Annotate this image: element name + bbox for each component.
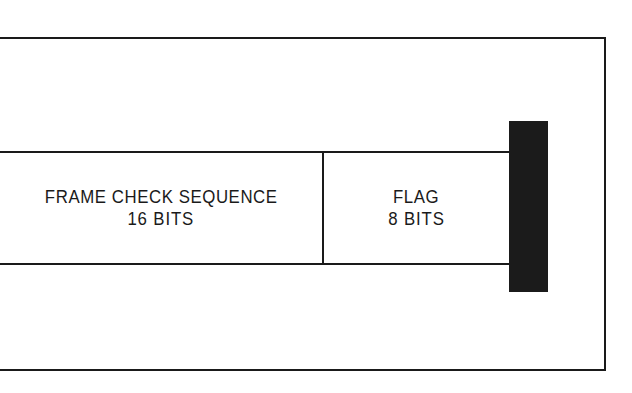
field-frame-check-sequence: FRAME CHECK SEQUENCE 16 BITS — [0, 153, 322, 263]
frame-format-diagram: FRAME CHECK SEQUENCE 16 BITS FLAG 8 BITS — [0, 0, 632, 393]
field-flag-name: FLAG — [393, 186, 439, 208]
field-flag: FLAG 8 BITS — [324, 153, 509, 263]
frame-right-border — [604, 37, 606, 371]
field-flag-size: 8 BITS — [388, 208, 445, 230]
frame-bottom-border — [0, 369, 606, 371]
frame-top-border — [0, 37, 606, 39]
frame-terminator-block — [509, 121, 548, 292]
field-band-bottom-line — [0, 263, 512, 265]
field-frame-check-sequence-size: 16 BITS — [128, 208, 195, 230]
field-frame-check-sequence-name: FRAME CHECK SEQUENCE — [45, 186, 278, 208]
